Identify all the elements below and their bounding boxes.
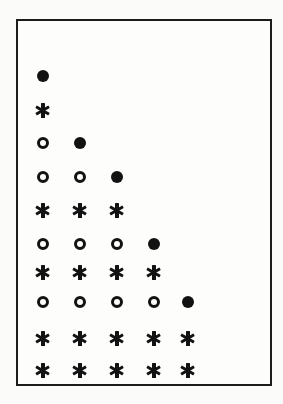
open-circle-icon [111,238,123,250]
grid-marker [32,65,54,87]
grid-marker [177,327,199,349]
grid-marker [69,327,91,349]
symbol-grid [18,21,270,384]
grid-marker [69,261,91,283]
open-circle-icon [111,296,123,308]
filled-circle-icon [148,238,160,250]
grid-marker [32,327,54,349]
grid-marker [106,261,128,283]
open-circle-icon [148,296,160,308]
filled-circle-icon [74,137,86,149]
asterisk-icon [73,265,88,280]
asterisk-icon [181,331,196,346]
filled-circle-icon [182,296,194,308]
grid-marker [32,166,54,188]
open-circle-icon [37,238,49,250]
open-circle-icon [37,296,49,308]
grid-marker [106,327,128,349]
asterisk-icon [36,363,51,378]
grid-marker [32,261,54,283]
asterisk-icon [110,203,125,218]
grid-marker [69,291,91,313]
grid-marker [143,233,165,255]
grid-marker [69,132,91,154]
asterisk-icon [147,331,162,346]
asterisk-icon [110,331,125,346]
filled-circle-icon [37,70,49,82]
asterisk-icon [73,203,88,218]
filled-circle-icon [111,171,123,183]
grid-marker [106,233,128,255]
asterisk-icon [181,363,196,378]
grid-marker [106,359,128,381]
grid-marker [32,99,54,121]
open-circle-icon [74,238,86,250]
grid-marker [69,166,91,188]
figure-root [0,0,283,404]
asterisk-icon [36,103,51,118]
asterisk-icon [147,265,162,280]
grid-marker [106,166,128,188]
grid-marker [177,359,199,381]
asterisk-icon [36,331,51,346]
grid-marker [32,291,54,313]
open-circle-icon [37,171,49,183]
grid-marker [143,291,165,313]
grid-marker [143,359,165,381]
grid-marker [143,327,165,349]
asterisk-icon [73,363,88,378]
grid-marker [177,291,199,313]
asterisk-icon [110,363,125,378]
grid-marker [69,233,91,255]
grid-marker [69,199,91,221]
grid-marker [32,359,54,381]
asterisk-icon [36,265,51,280]
grid-marker [32,132,54,154]
asterisk-icon [36,203,51,218]
asterisk-icon [73,331,88,346]
grid-marker [143,261,165,283]
grid-marker [69,359,91,381]
grid-marker [106,199,128,221]
grid-marker [106,291,128,313]
grid-marker [32,233,54,255]
asterisk-icon [110,265,125,280]
open-circle-icon [74,296,86,308]
grid-marker [32,199,54,221]
open-circle-icon [37,137,49,149]
plot-frame-border [16,19,272,386]
open-circle-icon [74,171,86,183]
asterisk-icon [147,363,162,378]
